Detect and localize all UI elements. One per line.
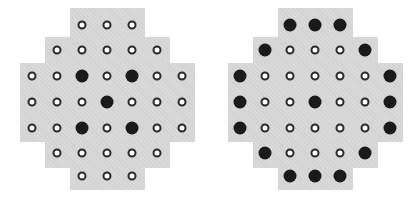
peg[interactable] xyxy=(384,70,397,83)
empty-hole[interactable] xyxy=(286,149,295,158)
empty-hole[interactable] xyxy=(178,124,187,133)
empty-hole[interactable] xyxy=(53,46,62,55)
empty-hole[interactable] xyxy=(336,98,345,107)
empty-hole[interactable] xyxy=(153,46,162,55)
empty-hole[interactable] xyxy=(103,21,112,30)
empty-hole[interactable] xyxy=(103,172,112,181)
empty-hole[interactable] xyxy=(261,124,270,133)
empty-hole[interactable] xyxy=(361,98,370,107)
empty-hole[interactable] xyxy=(311,46,320,55)
empty-hole[interactable] xyxy=(78,172,87,181)
empty-hole[interactable] xyxy=(53,98,62,107)
peg[interactable] xyxy=(309,170,322,183)
empty-hole[interactable] xyxy=(28,72,37,81)
peg[interactable] xyxy=(126,70,139,83)
peg[interactable] xyxy=(234,96,247,109)
peg[interactable] xyxy=(76,70,89,83)
peg[interactable] xyxy=(359,44,372,57)
empty-hole[interactable] xyxy=(311,124,320,133)
peg[interactable] xyxy=(334,170,347,183)
empty-hole[interactable] xyxy=(78,98,87,107)
peg[interactable] xyxy=(234,122,247,135)
empty-hole[interactable] xyxy=(128,98,137,107)
peg[interactable] xyxy=(284,19,297,32)
empty-hole[interactable] xyxy=(178,72,187,81)
empty-hole[interactable] xyxy=(261,72,270,81)
empty-hole[interactable] xyxy=(128,149,137,158)
peg[interactable] xyxy=(309,96,322,109)
empty-hole[interactable] xyxy=(103,46,112,55)
peg[interactable] xyxy=(359,147,372,160)
peg[interactable] xyxy=(126,122,139,135)
empty-hole[interactable] xyxy=(128,46,137,55)
empty-hole[interactable] xyxy=(78,46,87,55)
peg[interactable] xyxy=(234,70,247,83)
empty-hole[interactable] xyxy=(53,149,62,158)
empty-hole[interactable] xyxy=(153,72,162,81)
right-board xyxy=(208,0,418,200)
empty-hole[interactable] xyxy=(311,72,320,81)
peg[interactable] xyxy=(259,44,272,57)
empty-hole[interactable] xyxy=(103,72,112,81)
empty-hole[interactable] xyxy=(361,124,370,133)
empty-hole[interactable] xyxy=(286,46,295,55)
empty-hole[interactable] xyxy=(286,72,295,81)
empty-hole[interactable] xyxy=(28,98,37,107)
empty-hole[interactable] xyxy=(128,21,137,30)
empty-hole[interactable] xyxy=(336,124,345,133)
peg[interactable] xyxy=(284,170,297,183)
empty-hole[interactable] xyxy=(53,72,62,81)
peg[interactable] xyxy=(384,122,397,135)
empty-hole[interactable] xyxy=(178,98,187,107)
peg[interactable] xyxy=(259,147,272,160)
empty-hole[interactable] xyxy=(286,98,295,107)
empty-hole[interactable] xyxy=(286,124,295,133)
left-board xyxy=(0,0,210,200)
peg[interactable] xyxy=(309,19,322,32)
empty-hole[interactable] xyxy=(153,149,162,158)
empty-hole[interactable] xyxy=(361,72,370,81)
empty-hole[interactable] xyxy=(53,124,62,133)
empty-hole[interactable] xyxy=(336,72,345,81)
empty-hole[interactable] xyxy=(153,124,162,133)
empty-hole[interactable] xyxy=(311,149,320,158)
peg[interactable] xyxy=(101,96,114,109)
empty-hole[interactable] xyxy=(128,172,137,181)
peg[interactable] xyxy=(334,19,347,32)
empty-hole[interactable] xyxy=(103,149,112,158)
empty-hole[interactable] xyxy=(78,149,87,158)
empty-hole[interactable] xyxy=(336,46,345,55)
empty-hole[interactable] xyxy=(28,124,37,133)
empty-hole[interactable] xyxy=(261,98,270,107)
peg[interactable] xyxy=(76,122,89,135)
empty-hole[interactable] xyxy=(336,149,345,158)
empty-hole[interactable] xyxy=(78,21,87,30)
empty-hole[interactable] xyxy=(103,124,112,133)
peg[interactable] xyxy=(384,96,397,109)
empty-hole[interactable] xyxy=(153,98,162,107)
